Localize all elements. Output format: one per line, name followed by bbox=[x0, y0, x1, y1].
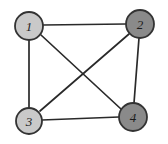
vertex-1[interactable]: 1 bbox=[15, 12, 43, 40]
edge-2-4 bbox=[134, 38, 139, 103]
edge-group bbox=[29, 24, 139, 120]
vertex-4[interactable]: 4 bbox=[119, 103, 147, 131]
vertex-3[interactable]: 3 bbox=[16, 108, 42, 134]
vertex-2-label: 2 bbox=[137, 17, 144, 32]
edge-1-2 bbox=[43, 24, 126, 25]
vertex-3-label: 3 bbox=[25, 114, 33, 129]
edge-1-4-diagonal bbox=[41, 35, 121, 109]
graph-figure: 1 2 3 4 bbox=[0, 0, 168, 144]
graph-canvas: 1 2 3 4 bbox=[0, 0, 168, 144]
vertex-4-label: 4 bbox=[130, 110, 137, 125]
vertex-2[interactable]: 2 bbox=[126, 10, 154, 38]
vertex-1-label: 1 bbox=[26, 19, 33, 34]
edge-3-4 bbox=[42, 117, 119, 120]
